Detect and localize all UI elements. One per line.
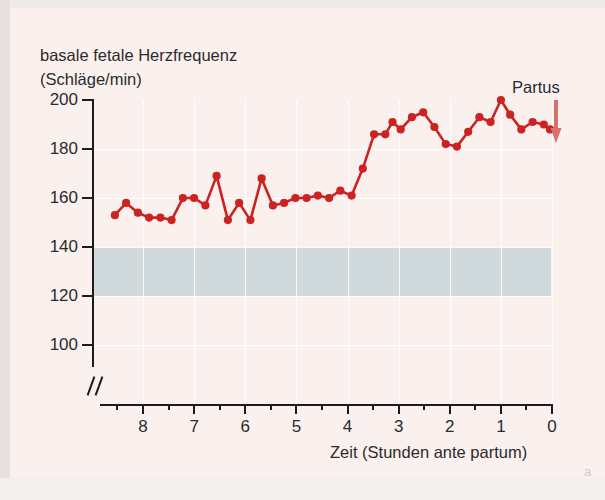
data-point	[529, 118, 537, 126]
data-point	[246, 216, 254, 224]
data-point	[487, 118, 495, 126]
data-point	[442, 140, 450, 148]
data-point	[359, 165, 367, 173]
figure-panel: basale fetale Herzfrequenz (Schläge/min)…	[0, 0, 605, 500]
data-point	[464, 128, 472, 136]
data-point	[419, 108, 427, 116]
data-point	[201, 201, 209, 209]
data-point	[303, 194, 311, 202]
data-point	[235, 199, 243, 207]
data-point	[122, 199, 130, 207]
data-point	[269, 201, 277, 209]
data-point	[430, 123, 438, 131]
data-point	[497, 96, 505, 104]
data-point	[453, 143, 461, 151]
plot-area: 200180160140120100 876543210	[0, 0, 605, 500]
data-point	[370, 130, 378, 138]
data-point	[280, 199, 288, 207]
data-point	[179, 194, 187, 202]
data-point	[336, 187, 344, 195]
data-point	[408, 113, 416, 121]
data-point	[145, 214, 153, 222]
data-point	[475, 113, 483, 121]
data-point	[190, 194, 198, 202]
data-point	[397, 125, 405, 133]
data-point	[111, 211, 119, 219]
data-point	[381, 130, 389, 138]
data-point	[213, 172, 221, 180]
down-arrow-icon	[549, 100, 563, 144]
data-point	[258, 174, 266, 182]
figure-corner-label: a	[584, 464, 591, 479]
series-heart-rate	[0, 0, 605, 500]
data-point	[291, 194, 299, 202]
data-point	[314, 192, 322, 200]
data-point	[388, 118, 396, 126]
data-point	[506, 111, 514, 119]
data-point	[224, 216, 232, 224]
data-point	[168, 216, 176, 224]
series-markers	[111, 96, 554, 224]
data-point	[325, 194, 333, 202]
data-point	[134, 209, 142, 217]
data-point	[517, 125, 525, 133]
data-point	[156, 214, 164, 222]
x-axis-caption: Zeit (Stunden ante partum)	[330, 443, 527, 462]
series-line	[115, 100, 550, 220]
data-point	[348, 192, 356, 200]
partus-label: Partus	[512, 78, 560, 97]
